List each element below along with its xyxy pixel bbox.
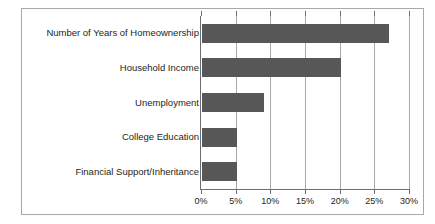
axis-tick-top bbox=[305, 11, 306, 16]
bar bbox=[202, 58, 341, 77]
bar bbox=[202, 162, 237, 181]
category-label: Household Income bbox=[9, 62, 199, 74]
x-tick-label: 10% bbox=[261, 196, 279, 207]
axis-tick-bottom bbox=[201, 189, 202, 194]
x-tick-label: 0% bbox=[194, 196, 207, 207]
axis-tick-top bbox=[201, 11, 202, 16]
x-tick-label: 30% bbox=[400, 196, 418, 207]
axis-tick-bottom bbox=[270, 189, 271, 194]
axis-tick-top bbox=[409, 11, 410, 16]
bar-chart: 0%5%10%15%20%25%30% Number of Years of H… bbox=[22, 9, 423, 214]
gridline bbox=[409, 16, 410, 189]
category-label: Financial Support/Inheritance bbox=[9, 166, 199, 178]
axis-tick-bottom bbox=[374, 189, 375, 194]
plot-area: 0%5%10%15%20%25%30% bbox=[200, 16, 409, 190]
axis-tick-bottom bbox=[409, 189, 410, 194]
axis-tick-bottom bbox=[236, 189, 237, 194]
axis-tick-top bbox=[270, 11, 271, 16]
axis-tick-top bbox=[374, 11, 375, 16]
bar bbox=[202, 128, 237, 147]
x-tick-label: 20% bbox=[331, 196, 349, 207]
axis-tick-bottom bbox=[340, 189, 341, 194]
category-label: College Education bbox=[9, 131, 199, 143]
x-tick-label: 25% bbox=[365, 196, 383, 207]
x-tick-label: 5% bbox=[229, 196, 242, 207]
axis-tick-bottom bbox=[305, 189, 306, 194]
chart-frame: 0%5%10%15%20%25%30% Number of Years of H… bbox=[21, 8, 424, 215]
bar bbox=[202, 24, 389, 43]
category-label: Number of Years of Homeownership bbox=[9, 27, 199, 39]
x-tick-label: 15% bbox=[296, 196, 314, 207]
axis-tick-top bbox=[340, 11, 341, 16]
axis-tick-top bbox=[236, 11, 237, 16]
bar bbox=[202, 93, 264, 112]
category-label: Unemployment bbox=[9, 97, 199, 109]
